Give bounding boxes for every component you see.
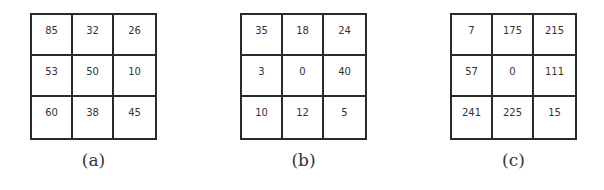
- grid-cell: 60: [32, 97, 73, 138]
- grid-cell: 111: [534, 56, 575, 97]
- grid-cell: 40: [324, 56, 365, 97]
- grid-cell: 0: [283, 56, 324, 97]
- grid-cell: 0: [493, 56, 534, 97]
- matrix-grid-b: 35 18 24 3 0 40 10 12 5: [240, 13, 367, 140]
- panel-label-c: (c): [450, 150, 577, 170]
- grid-cell: 175: [493, 15, 534, 56]
- panel-label-b: (b): [240, 150, 367, 170]
- grid-cell: 32: [73, 15, 114, 56]
- grid-cell: 241: [452, 97, 493, 138]
- grid-cell: 38: [73, 97, 114, 138]
- grid-cell: 35: [242, 15, 283, 56]
- grid-cell: 18: [283, 15, 324, 56]
- grid-cell: 85: [32, 15, 73, 56]
- grid-cell: 10: [242, 97, 283, 138]
- grid-cell: 24: [324, 15, 365, 56]
- grid-cell: 7: [452, 15, 493, 56]
- grid-cell: 5: [324, 97, 365, 138]
- panel-b: 35 18 24 3 0 40 10 12 5 (b): [240, 13, 367, 140]
- grid-cell: 3: [242, 56, 283, 97]
- grid-cell: 57: [452, 56, 493, 97]
- panel-a: 85 32 26 53 50 10 60 38 45 (a): [30, 13, 157, 140]
- grid-cell: 15: [534, 97, 575, 138]
- grid-cell: 225: [493, 97, 534, 138]
- panel-c: 7 175 215 57 0 111 241 225 15 (c): [450, 13, 577, 140]
- matrix-grid-c: 7 175 215 57 0 111 241 225 15: [450, 13, 577, 140]
- grid-cell: 45: [114, 97, 155, 138]
- panel-label-a: (a): [30, 150, 157, 170]
- grid-cell: 12: [283, 97, 324, 138]
- grid-cell: 10: [114, 56, 155, 97]
- grid-cell: 53: [32, 56, 73, 97]
- grid-cell: 215: [534, 15, 575, 56]
- grid-cell: 50: [73, 56, 114, 97]
- matrix-grid-a: 85 32 26 53 50 10 60 38 45: [30, 13, 157, 140]
- grid-cell: 26: [114, 15, 155, 56]
